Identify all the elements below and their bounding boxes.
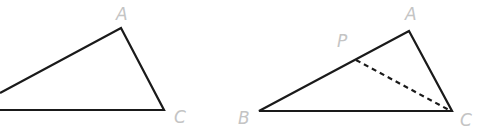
vertex-label-C: C [460,110,472,130]
vertex-label-C: C [174,107,186,127]
vertex-label-A: A [404,4,417,24]
dashed-segment-PC [356,60,449,110]
vertex-label-A: A [115,4,128,24]
right-triangle-outline [259,31,452,111]
right-triangle: A P B C [238,4,472,130]
point-label-P: P [337,31,348,51]
left-triangle-outline [0,28,164,110]
vertex-label-B: B [238,108,250,128]
left-triangle: A C [0,4,186,127]
geometry-diagram: A C A P B C [0,0,481,132]
